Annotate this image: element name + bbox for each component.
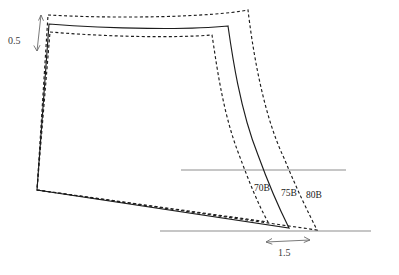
dimension-horizontal-line bbox=[266, 240, 310, 242]
pattern-outlines-group bbox=[37, 10, 317, 230]
size-label-80b: 80B bbox=[306, 190, 322, 200]
dimension-labels-group: 0.5 1.5 bbox=[8, 35, 291, 258]
size-labels-group: 70B 75B 80B bbox=[254, 183, 322, 200]
arrowhead-right-icon bbox=[304, 237, 310, 243]
pattern-grading-diagram: 70B 75B 80B 0.5 1.5 bbox=[0, 0, 399, 275]
size-label-70b: 70B bbox=[254, 183, 270, 193]
dimension-label-vertical: 0.5 bbox=[8, 35, 21, 46]
dimension-label-horizontal: 1.5 bbox=[278, 247, 291, 258]
pattern-outline-75b bbox=[37, 24, 289, 228]
reference-lines-group bbox=[160, 170, 371, 231]
dimension-vertical-group bbox=[34, 15, 44, 51]
dimension-horizontal-group bbox=[266, 237, 310, 244]
size-label-75b: 75B bbox=[281, 188, 297, 198]
pattern-drawing-canvas: 70B 75B 80B 0.5 1.5 bbox=[0, 0, 399, 275]
